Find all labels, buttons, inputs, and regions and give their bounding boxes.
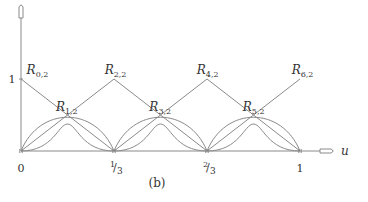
- figure-caption: (b): [148, 176, 165, 190]
- series-R1-2-upper: [21, 117, 114, 151]
- svg-text:3: 3: [210, 166, 216, 176]
- series-label: R0,2: [26, 63, 49, 79]
- svg-text:1: 1: [297, 162, 304, 175]
- axes: u01/32/311: [9, 5, 349, 176]
- series-label: R1,2: [55, 100, 78, 116]
- svg-text:3: 3: [117, 166, 123, 176]
- series-R3-2-upper: [114, 117, 207, 151]
- y-tick-label: 1: [9, 73, 16, 86]
- y-axis-arrow-icon: [19, 5, 23, 18]
- x-axis-arrow-icon: [320, 149, 333, 153]
- series-label: R3,2: [148, 100, 171, 116]
- series-label: R6,2: [291, 63, 314, 79]
- chart-svg: u01/32/311 R0,2R1,2R2,2R3,2R4,2R5,2R6,2 …: [0, 0, 368, 202]
- x-tick-label: 0: [18, 162, 25, 175]
- series-label: R5,2: [242, 100, 265, 116]
- series-R1-2-lower: [21, 124, 114, 151]
- series-labels: R0,2R1,2R2,2R3,2R4,2R5,2R6,2: [26, 63, 314, 116]
- chart-figure: u01/32/311 R0,2R1,2R2,2R3,2R4,2R5,2R6,2 …: [0, 0, 368, 202]
- svg-text:0: 0: [18, 162, 25, 175]
- series-label: R2,2: [104, 63, 127, 79]
- series-R3-2-lower: [114, 124, 207, 151]
- x-tick-label: 1: [297, 162, 304, 175]
- series-R5-2-lower: [207, 124, 300, 151]
- x-axis-label: u: [341, 144, 349, 158]
- series-R2-2: [21, 79, 207, 151]
- series-label: R4,2: [196, 63, 219, 79]
- x-tick-label: 2/3: [203, 160, 216, 176]
- series-R5-2-upper: [207, 117, 300, 151]
- x-tick-label: 1/3: [110, 160, 123, 176]
- series-R4-2: [114, 79, 300, 151]
